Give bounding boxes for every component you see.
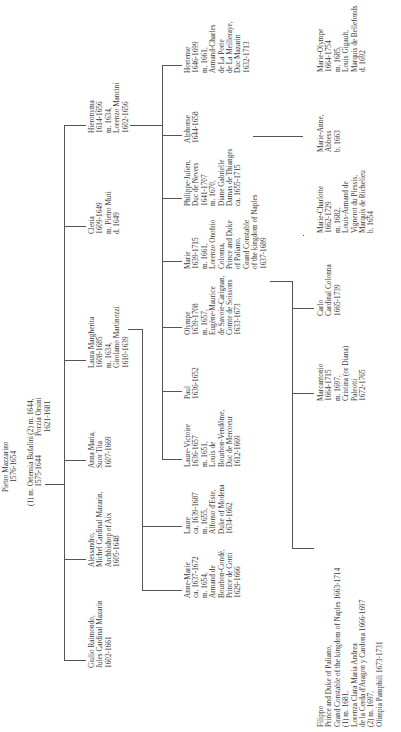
connector	[142, 526, 182, 527]
connector	[45, 484, 64, 485]
node-marie-anne-abbess: Marie-Anne, Abbess b. 1663	[317, 115, 342, 152]
connector	[253, 136, 303, 137]
node-laura-margherita: Laura Margherita 1608-1685 m. 1634, Giro…	[88, 306, 130, 368]
connector	[64, 226, 86, 227]
node-line: 1665-1739	[334, 264, 342, 316]
node-laure-victoire: Laure-Victoire 1636-1657 m. 1651, Louis …	[184, 410, 243, 467]
connector	[162, 135, 182, 136]
family-tree-diagram: Pietro Mazzarino 1576-1654 (1) m. Ortens…	[0, 0, 401, 732]
node-line: 1610-1639	[122, 306, 130, 368]
node-line: d. 1692	[359, 6, 367, 72]
node-marie-charlotte: Marie-Charlotte 1662-1729 m. 1682, Louis…	[317, 170, 376, 233]
node-line: 1576-1654	[10, 442, 18, 492]
connector	[162, 198, 182, 199]
node-line: 1621-1681	[44, 397, 52, 436]
connector	[64, 460, 86, 461]
node-line: 1605-1648	[113, 491, 121, 567]
connector	[128, 329, 142, 330]
node-olympe: Olympe 1639-1708 m. 1657, Eugène-Maurice…	[184, 275, 243, 335]
node-line: 1633-1673	[234, 275, 242, 335]
connector	[162, 327, 182, 328]
node-alessandro: Alessandro, Michel Cardinal Mazarin, Arc…	[88, 491, 122, 567]
connector	[162, 66, 163, 460]
connector	[64, 559, 86, 560]
connector	[162, 459, 182, 460]
node-line: 1607-1669	[105, 431, 113, 468]
connector	[270, 281, 292, 282]
node-marie-olympe: Marie-Olympe 1664-1754 m. 1685, Louis Gi…	[317, 6, 367, 72]
node-line: 1612-1669	[234, 410, 242, 467]
node-line: 1672-1765	[359, 346, 367, 401]
node-line: b. 1654	[367, 170, 375, 233]
node-line: 1644-1658	[192, 111, 200, 143]
node-philippe-julien: Philippe-Julien, Duc de Nevers 1641-1707…	[184, 149, 243, 206]
connector	[142, 590, 182, 591]
connector	[162, 65, 182, 66]
connector	[292, 281, 293, 549]
node-anna-maria: Anna Maria, Suor Tita 1607-1669	[88, 431, 113, 468]
node-line: ca. 1655-1715	[234, 149, 242, 206]
node-line: d. 1649	[113, 191, 121, 234]
node-marcantonio: Marcantonio 1664-1715 m. 1697, Cristina …	[317, 346, 367, 401]
node-line: Olimpia Pamphili 1673-1731	[376, 568, 384, 727]
connector	[64, 125, 86, 126]
connector	[64, 360, 86, 361]
connector	[64, 660, 86, 661]
connector	[162, 391, 182, 392]
node-marriage-1: (1) m. Ortensia Bufalini 1575-1644	[27, 436, 44, 506]
node-laure: Laure ca. 1639-1687 m. 1655, Alfonso d'E…	[184, 485, 234, 534]
node-line: 1575-1644	[35, 436, 43, 506]
node-carlo: Carlo Cardinal Colonna 1665-1739	[317, 264, 342, 316]
node-marriage-2: (2) m. 1644, Porzia Orsini 1621-1681	[27, 397, 52, 436]
connector	[142, 329, 143, 591]
node-cleria: Cleria 1609-1649 m. Pietro Muti d. 1649	[88, 191, 122, 234]
node-line: 1629-1666	[234, 549, 242, 598]
node-line: b. 1663	[334, 115, 342, 152]
node-hieronyma: Hieronyma 1614-1656 m. 1634, Lorenzo Man…	[88, 83, 130, 133]
node-line: 1636-1652	[192, 367, 200, 399]
connector	[162, 261, 182, 262]
connector	[292, 308, 314, 309]
connector	[130, 125, 162, 126]
node-line: 1602-1656	[122, 83, 130, 133]
node-giulio-raimondo: Giulio Raimondo, Jules Cardinal Mazarin …	[88, 600, 113, 668]
node-line: 1632-1713	[243, 21, 251, 73]
node-pietro-mazzarino: Pietro Mazzarino 1576-1654	[2, 442, 19, 492]
node-hortense: Hortense 1646-1699 m. 1661, Armand-Charl…	[184, 21, 251, 73]
connector	[292, 548, 314, 549]
node-line: 1637-1689	[260, 194, 268, 269]
node-anne-marie: Anne-Marie ca. 1637-1672 m. 1654, Armand…	[184, 549, 243, 598]
connector	[292, 393, 314, 394]
node-line: 1602-1661	[105, 600, 113, 668]
node-paul: Paul 1636-1652	[184, 367, 201, 399]
node-alphonse: Alphonse 1644-1658	[184, 111, 201, 143]
node-filippo: Filippo Prince and Duke of Paliano, Gran…	[317, 568, 384, 727]
connector	[64, 126, 65, 661]
node-line: 1634-1662	[226, 485, 234, 534]
